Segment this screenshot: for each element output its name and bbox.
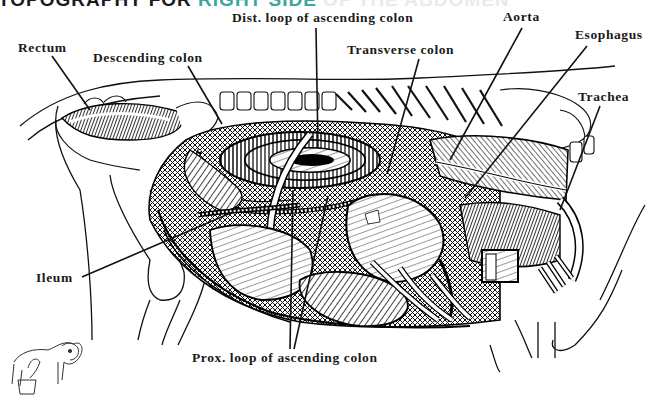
cow-icon: [12, 343, 82, 394]
label-prox-loop-ascending-colon: Prox. loop of ascending colon: [192, 351, 378, 365]
label-dist-loop-ascending-colon: Dist. loop of ascending colon: [232, 11, 413, 25]
label-aorta: Aorta: [503, 10, 540, 24]
label-ileum: Ileum: [36, 271, 73, 285]
label-trachea: Trachea: [578, 90, 629, 104]
anatomy-figure: TOPOGRAPHY FOR RIGHT SIDE OF THE ABDOMEN: [0, 0, 659, 398]
label-esophagus: Esophagus: [575, 28, 643, 42]
label-descending-colon: Descending colon: [93, 51, 203, 65]
label-rectum: Rectum: [18, 41, 67, 55]
label-transverse-colon: Transverse colon: [347, 43, 454, 57]
